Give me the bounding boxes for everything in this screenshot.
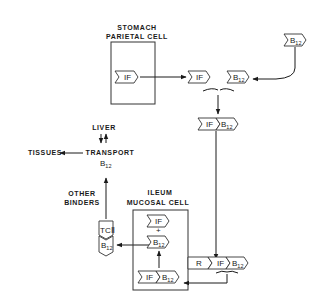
free-b12: B12	[227, 71, 249, 83]
svg-text:TCⅡ: TCⅡ	[100, 226, 115, 235]
uptake-arrow	[184, 274, 227, 283]
if-label: IF	[206, 120, 213, 129]
receptor-complex: R IF B12	[188, 257, 248, 269]
if-label: IF	[124, 73, 131, 82]
liver-label: LIVER	[92, 124, 116, 131]
svg-text:R: R	[196, 259, 202, 268]
svg-text:IF: IF	[217, 259, 224, 268]
if-label: IF	[196, 73, 203, 82]
if-b12-complex: IF B12	[198, 118, 238, 130]
parietal-cell-label: PARIETAL CELL	[106, 33, 168, 40]
mucosal-cell-label: MUCOSAL CELL	[127, 199, 190, 206]
binders-label: BINDERS	[64, 199, 100, 206]
stomach-label: STOMACH	[117, 24, 156, 31]
merge-brace	[203, 89, 234, 91]
svg-text:+: +	[156, 226, 161, 235]
tcii-b12: TCⅡ B12	[99, 221, 115, 256]
other-label: OTHER	[68, 190, 96, 197]
ileum-label: ILEUM	[148, 189, 173, 196]
dietary-b12: B12	[284, 34, 306, 46]
transport-label: TRANSPORT	[86, 149, 135, 156]
free-if: IF	[188, 71, 210, 83]
svg-text:IF: IF	[155, 217, 162, 226]
svg-text:IF: IF	[146, 273, 153, 282]
b12-absorption-diagram: STOMACH PARIETAL CELL IF IF B12 B12 IF B…	[0, 0, 311, 300]
dietary-b12-arrow	[253, 47, 295, 79]
tissues-label: TISSUES	[28, 149, 62, 156]
ileum-mucosal-cell: ILEUM MUCOSAL CELL IF + B12 IF B12	[127, 189, 190, 290]
uptake-brace	[216, 271, 238, 273]
svg-text:B12: B12	[100, 159, 111, 169]
stomach-parietal-cell: STOMACH PARIETAL CELL IF	[106, 24, 168, 104]
